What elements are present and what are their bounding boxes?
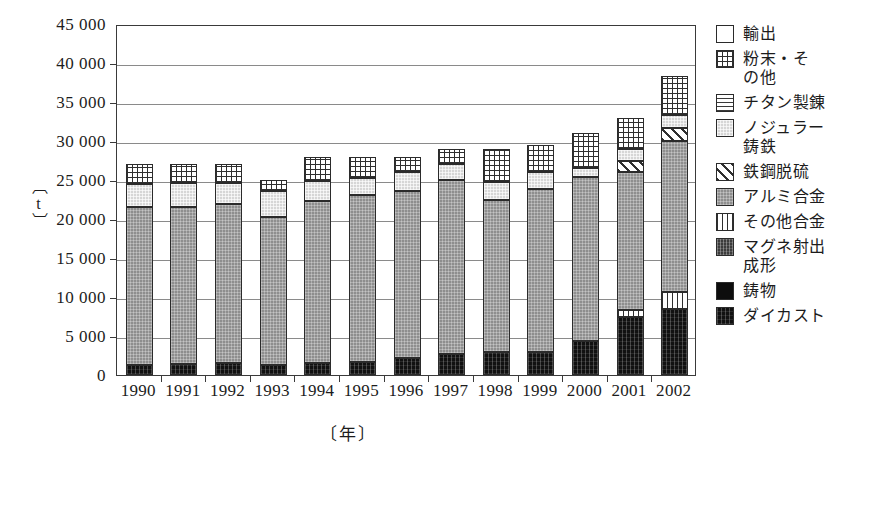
- legend-item-3[interactable]: ノジュラー 鋳鉄: [716, 118, 880, 156]
- bar-segment: [527, 172, 554, 189]
- bar-segment: [349, 178, 376, 195]
- bar-segment: [617, 317, 644, 375]
- bar-segment: [438, 164, 465, 180]
- x-axis-tick-label-1991: 1991: [158, 381, 208, 401]
- legend-swatch-icon: [716, 238, 734, 256]
- bar-segment: [572, 341, 599, 375]
- legend-swatch-icon: [716, 25, 734, 43]
- bar-1991[interactable]: [170, 24, 197, 375]
- bar-segment: [215, 363, 242, 375]
- y-axis-tick-label: 20 000: [14, 211, 106, 228]
- bar-segment: [170, 164, 197, 183]
- legend-item-5[interactable]: アルミ合金: [716, 187, 880, 206]
- legend-swatch-icon: [716, 94, 734, 112]
- bar-segment: [170, 364, 197, 375]
- y-axis-tick-label: 35 000: [14, 94, 106, 111]
- x-axis-tick-mark: [250, 376, 251, 382]
- x-axis-tick-mark: [384, 376, 385, 382]
- bar-segment: [617, 118, 644, 149]
- legend-item-4[interactable]: 鉄鋼脱硫: [716, 162, 880, 181]
- legend-item-6[interactable]: その他合金: [716, 212, 880, 231]
- x-axis-tick-label-1996: 1996: [381, 381, 431, 401]
- bar-2001[interactable]: [617, 24, 644, 375]
- legend-label: ダイカスト: [743, 306, 826, 325]
- x-axis-tick-label-1992: 1992: [203, 381, 253, 401]
- bar-segment: [215, 164, 242, 183]
- y-axis-tick-label: 45 000: [14, 16, 106, 33]
- bar-1997[interactable]: [438, 24, 465, 375]
- bar-segment: [394, 157, 421, 173]
- bar-segment: [170, 183, 197, 207]
- bar-1993[interactable]: [260, 24, 287, 375]
- bar-segment: [215, 183, 242, 204]
- bar-segment: [126, 365, 153, 375]
- x-axis-tick-mark: [161, 376, 162, 382]
- bar-segment: [661, 292, 688, 309]
- x-axis-tick-mark: [339, 376, 340, 382]
- legend-item-1[interactable]: 粉末・そ の他: [716, 49, 880, 87]
- bar-segment: [260, 180, 287, 191]
- x-axis-tick-mark: [607, 376, 608, 382]
- legend-swatch-icon: [716, 163, 734, 181]
- y-axis-tick-label: 5 000: [14, 328, 106, 345]
- legend-item-8[interactable]: 鋳物: [716, 281, 880, 300]
- legend-swatch-icon: [716, 307, 734, 325]
- x-axis-tick-mark: [651, 376, 652, 382]
- x-axis-tick-mark: [518, 376, 519, 382]
- legend-swatch-icon: [716, 50, 734, 68]
- x-axis-tick-label-2002: 2002: [649, 381, 699, 401]
- bar-segment: [438, 149, 465, 165]
- bar-segment: [483, 149, 510, 182]
- legend-label: その他合金: [743, 212, 826, 231]
- legend-label: マグネ射出 成形: [743, 237, 826, 275]
- bar-segment: [260, 365, 287, 375]
- plot-area: [116, 25, 696, 376]
- y-axis-tick-label: 0: [14, 367, 106, 384]
- bar-segment: [215, 204, 242, 363]
- bar-1998[interactable]: [483, 24, 510, 375]
- bar-segment: [661, 309, 688, 375]
- bar-segment: [349, 195, 376, 362]
- bar-segment: [483, 182, 510, 201]
- bar-segment: [527, 189, 554, 351]
- legend-swatch-icon: [716, 282, 734, 300]
- bar-segment: [572, 177, 599, 341]
- legend-label: 鉄鋼脱硫: [743, 162, 809, 181]
- bar-segment: [394, 358, 421, 375]
- y-axis-tick-label: 30 000: [14, 133, 106, 150]
- bar-segment: [394, 191, 421, 358]
- bar-segment: [617, 161, 644, 173]
- bar-segment: [438, 354, 465, 375]
- y-axis-tick-label: 10 000: [14, 289, 106, 306]
- bar-1999[interactable]: [527, 24, 554, 375]
- bar-segment: [527, 352, 554, 375]
- x-axis-tick-mark: [428, 376, 429, 382]
- x-axis-tick-mark: [562, 376, 563, 382]
- bar-segment: [617, 172, 644, 310]
- legend-item-2[interactable]: チタン製錬: [716, 93, 880, 112]
- x-axis-tick-label-1990: 1990: [113, 381, 163, 401]
- legend-item-9[interactable]: ダイカスト: [716, 306, 880, 325]
- bar-segment: [483, 200, 510, 352]
- bar-1994[interactable]: [304, 24, 331, 375]
- bar-1992[interactable]: [215, 24, 242, 375]
- legend-label: チタン製錬: [743, 93, 826, 112]
- legend-label: 粉末・そ の他: [743, 49, 809, 87]
- legend-item-7[interactable]: マグネ射出 成形: [716, 237, 880, 275]
- bar-1990[interactable]: [126, 24, 153, 375]
- bar-segment: [126, 184, 153, 207]
- bar-segment: [483, 352, 510, 375]
- x-axis-tick-mark: [205, 376, 206, 382]
- bar-1995[interactable]: [349, 24, 376, 375]
- bar-segment: [304, 201, 331, 362]
- x-axis-tick-label-1994: 1994: [292, 381, 342, 401]
- bar-segment: [304, 157, 331, 181]
- bar-segment: [661, 141, 688, 292]
- bar-2002[interactable]: [661, 24, 688, 375]
- bar-segment: [349, 362, 376, 375]
- legend-item-0[interactable]: 輸出: [716, 24, 880, 43]
- bar-segment: [304, 363, 331, 375]
- legend-label: ノジュラー 鋳鉄: [743, 118, 825, 156]
- bar-1996[interactable]: [394, 24, 421, 375]
- bar-2000[interactable]: [572, 24, 599, 375]
